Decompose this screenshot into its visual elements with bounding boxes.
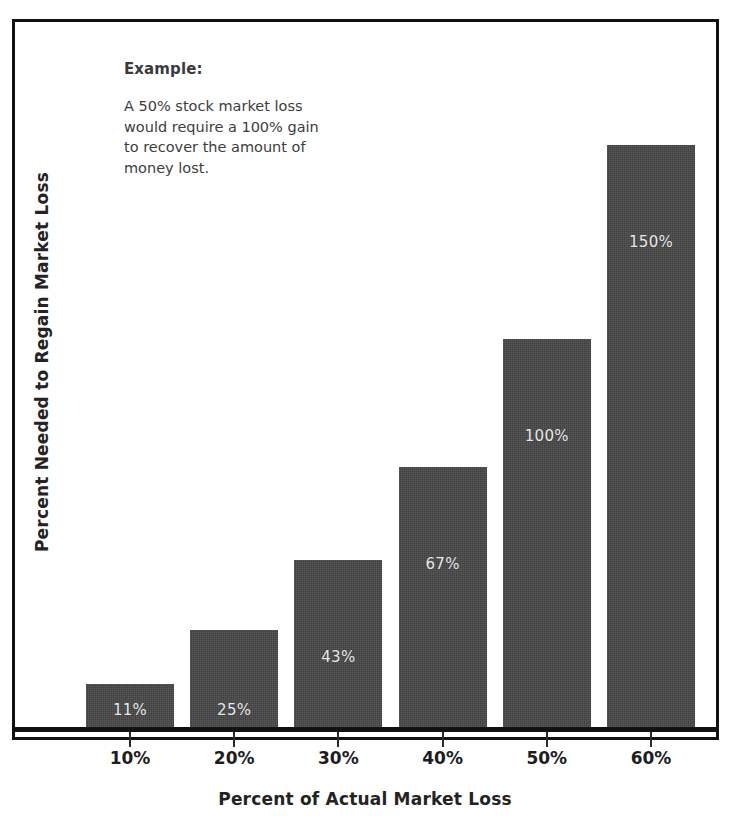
bar-value-label: 100% bbox=[503, 427, 591, 445]
bar-column: 100% bbox=[503, 339, 591, 727]
x-axis-tick-label: 10% bbox=[85, 748, 175, 768]
bar-column: 25% bbox=[190, 630, 278, 727]
x-axis-tick-label: 20% bbox=[189, 748, 279, 768]
x-axis-tick-label: 60% bbox=[606, 748, 696, 768]
bar-value-label: 11% bbox=[86, 701, 174, 719]
bar-column: 43% bbox=[294, 560, 382, 727]
x-axis-tick bbox=[650, 732, 652, 747]
bar-rect bbox=[399, 467, 487, 727]
x-axis-tick bbox=[442, 732, 444, 747]
bar-value-label: 67% bbox=[399, 555, 487, 573]
bar-value-label: 25% bbox=[190, 701, 278, 719]
x-axis-tick-label: 40% bbox=[398, 748, 488, 768]
bar-value-label: 43% bbox=[294, 648, 382, 666]
plot-area: 11%25%43%67%100%150% bbox=[0, 0, 730, 824]
x-axis-tick-label: 50% bbox=[502, 748, 592, 768]
x-axis-tick-label: 30% bbox=[293, 748, 383, 768]
x-axis-line bbox=[15, 727, 719, 732]
x-axis-tick bbox=[233, 732, 235, 747]
x-axis-title: Percent of Actual Market Loss bbox=[0, 789, 730, 809]
bar-column: 150% bbox=[607, 145, 695, 727]
bar-chart-figure: Example: A 50% stock market loss would r… bbox=[0, 0, 730, 824]
x-axis-tick bbox=[129, 732, 131, 747]
x-axis-tick bbox=[546, 732, 548, 747]
x-axis-tick bbox=[337, 732, 339, 747]
bar-column: 67% bbox=[399, 467, 487, 727]
bar-value-label: 150% bbox=[607, 233, 695, 251]
bar-rect bbox=[294, 560, 382, 727]
bar-column: 11% bbox=[86, 684, 174, 727]
bar-rect bbox=[503, 339, 591, 727]
